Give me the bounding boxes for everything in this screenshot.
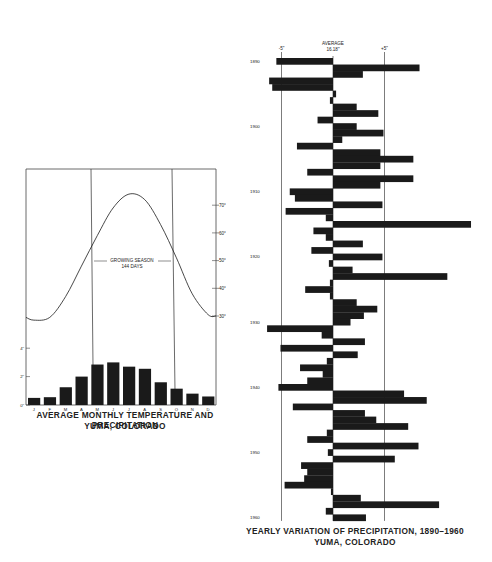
year-bar-1903 <box>297 143 333 150</box>
precip-bar-8 <box>155 382 167 405</box>
year-label: 1910 <box>250 189 260 194</box>
year-label: 1950 <box>250 450 260 455</box>
year-bar-1924 <box>330 280 333 287</box>
plus-5-label: +5" <box>381 46 388 51</box>
year-bar-1911 <box>295 195 333 202</box>
average-value: 16.18" <box>326 47 339 52</box>
year-bar-1894 <box>272 84 333 91</box>
year-bar-1899 <box>318 117 333 124</box>
year-bar-1898 <box>333 110 378 117</box>
year-bar-1959 <box>326 508 333 515</box>
year-bar-1954 <box>304 475 333 482</box>
year-bar-1934 <box>280 345 333 352</box>
precip-bar-6 <box>123 367 135 405</box>
year-bar-1946 <box>333 423 408 430</box>
precip-tick-label: 0" <box>20 403 24 408</box>
year-bar-1944 <box>333 410 365 417</box>
year-bar-1914 <box>326 214 333 221</box>
temperature-curve <box>26 194 216 321</box>
precip-tick-label: 4" <box>20 346 24 351</box>
growing-season-label: GROWING SEASON <box>110 258 153 263</box>
year-bar-1960 <box>333 514 366 521</box>
year-bar-1917 <box>326 234 333 241</box>
year-bar-1935 <box>333 351 358 358</box>
year-bar-1926 <box>330 293 333 300</box>
right-chart-subtitle: YUMA, COLORADO <box>245 537 465 547</box>
precip-bar-9 <box>171 389 183 405</box>
year-bar-1940 <box>278 384 333 391</box>
left-chart-subtitle: YUMA, COLORADO <box>10 421 240 431</box>
year-bar-1923 <box>333 273 447 280</box>
precip-bar-5 <box>107 362 119 405</box>
year-bar-1952 <box>301 462 333 469</box>
year-bar-1892 <box>333 71 363 78</box>
year-bar-1950 <box>328 449 333 456</box>
year-bar-1897 <box>333 104 357 111</box>
precip-bar-4 <box>91 365 103 405</box>
temp-tick-label: 60° <box>219 231 226 236</box>
year-bar-1925 <box>305 286 333 293</box>
year-bar-1949 <box>333 443 418 450</box>
year-bar-1896 <box>330 97 333 104</box>
precip-bar-11 <box>202 396 214 405</box>
year-label: 1900 <box>250 124 260 129</box>
year-label: 1960 <box>250 515 260 520</box>
year-label: 1920 <box>250 254 260 259</box>
year-bar-1902 <box>333 136 342 143</box>
year-bar-1910 <box>290 188 333 195</box>
precip-bar-7 <box>139 369 151 405</box>
temp-tick-label: 50° <box>219 258 226 263</box>
year-bar-1958 <box>333 501 439 508</box>
year-bar-1921 <box>329 260 333 267</box>
year-bar-1939 <box>307 377 333 384</box>
year-bar-1936 <box>327 358 333 365</box>
precip-bar-10 <box>186 394 198 405</box>
year-bar-1928 <box>333 306 377 313</box>
year-bar-1920 <box>333 254 382 261</box>
year-bar-1933 <box>333 338 365 345</box>
year-bar-1893 <box>269 78 333 85</box>
year-bar-1955 <box>285 482 333 489</box>
year-bar-1945 <box>333 417 376 424</box>
year-bar-1906 <box>333 162 380 169</box>
year-bar-1927 <box>333 299 357 306</box>
right-chart-title: YEARLY VARIATION OF PRECIPITATION, 1890–… <box>245 526 465 536</box>
year-bar-1932 <box>322 332 333 339</box>
minus-5-label: -5" <box>279 46 285 51</box>
precip-bar-0 <box>28 398 40 405</box>
year-label: 1940 <box>250 385 260 390</box>
year-label: 1890 <box>250 59 260 64</box>
year-bar-1909 <box>333 182 380 189</box>
precip-bar-1 <box>44 397 56 405</box>
year-bar-1938 <box>323 371 333 378</box>
chart-canvas: GROWING SEASON144 DAYSJFMAMJJASOND0"2"4"… <box>0 0 492 562</box>
average-label: AVERAGE <box>322 41 344 46</box>
year-bar-1956 <box>331 488 333 495</box>
year-bar-1951 <box>333 456 395 463</box>
year-bar-1912 <box>333 201 382 208</box>
year-bar-1929 <box>333 312 364 319</box>
year-bar-1916 <box>313 228 333 235</box>
year-bar-1930 <box>333 319 351 326</box>
year-bar-1947 <box>327 430 333 437</box>
growing-season-end-line <box>172 169 175 391</box>
year-bar-1918 <box>333 241 363 248</box>
year-bar-1922 <box>333 267 353 274</box>
year-bar-1908 <box>333 175 413 182</box>
temp-tick-label: 30° <box>219 314 226 319</box>
year-bar-1919 <box>311 247 333 254</box>
year-bar-1900 <box>333 123 357 130</box>
year-bar-1953 <box>307 469 333 476</box>
year-bar-1937 <box>300 364 333 371</box>
year-bar-1957 <box>333 495 361 502</box>
year-bar-1948 <box>307 436 333 443</box>
year-bar-1931 <box>267 325 333 332</box>
year-bar-1915 <box>333 221 471 228</box>
year-bar-1901 <box>333 130 383 137</box>
year-bar-1904 <box>333 149 380 156</box>
year-label: 1930 <box>250 320 260 325</box>
year-bar-1891 <box>333 65 420 72</box>
year-bar-1895 <box>333 91 336 98</box>
precip-bar-3 <box>76 377 88 405</box>
year-bar-1890 <box>276 58 333 65</box>
